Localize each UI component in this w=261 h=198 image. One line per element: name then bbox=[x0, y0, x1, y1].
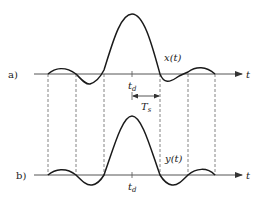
signal-x-label: x(t) bbox=[164, 52, 182, 63]
td-label-a: td bbox=[128, 80, 137, 93]
panel-a: a) t x(t) td Ts bbox=[8, 14, 251, 114]
signal-diagram: a) t x(t) td Ts b) t y(t) td bbox=[0, 0, 261, 198]
axis-t-label-b: t bbox=[246, 170, 251, 181]
panel-b: b) t y(t) td bbox=[16, 116, 251, 194]
signal-y-label: y(t) bbox=[164, 153, 183, 164]
panel-a-label: a) bbox=[8, 69, 18, 80]
panel-b-label: b) bbox=[16, 170, 26, 181]
td-label-b: td bbox=[128, 181, 137, 194]
ts-label: Ts bbox=[141, 101, 152, 114]
axis-t-label-a: t bbox=[246, 69, 251, 80]
